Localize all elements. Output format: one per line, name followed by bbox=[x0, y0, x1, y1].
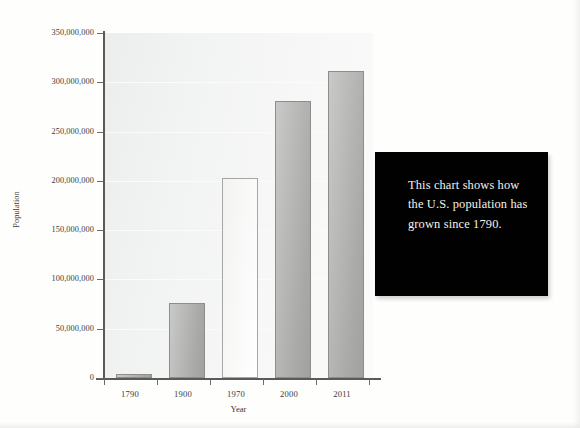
page-canvas: 350,000,000 300,000,000 250,000,000 200,… bbox=[0, 0, 580, 428]
bar-2011[interactable] bbox=[328, 71, 364, 378]
callout-box: This chart shows how the U.S. population… bbox=[375, 152, 548, 296]
x-tick bbox=[157, 379, 158, 385]
y-tick-label-250m: 250,000,000 bbox=[16, 127, 94, 136]
y-tick bbox=[97, 279, 103, 280]
x-tick-label-1970: 1970 bbox=[206, 389, 266, 399]
y-tick bbox=[97, 329, 103, 330]
y-tick bbox=[97, 181, 103, 182]
y-tick-label-350m: 350,000,000 bbox=[16, 28, 94, 37]
y-tick bbox=[97, 33, 103, 34]
callout-text: This chart shows how the U.S. population… bbox=[408, 176, 538, 234]
y-axis-line bbox=[103, 31, 105, 379]
y-tick-label-300m: 300,000,000 bbox=[16, 77, 94, 86]
x-axis-title: Year bbox=[104, 404, 373, 414]
x-tick bbox=[210, 379, 211, 385]
bar-shadow bbox=[280, 106, 314, 381]
bar-1900[interactable] bbox=[169, 303, 205, 378]
x-tick bbox=[316, 379, 317, 385]
y-tick bbox=[97, 230, 103, 231]
y-tick-label-100m: 100,000,000 bbox=[16, 274, 94, 283]
y-tick bbox=[97, 378, 103, 379]
bar-2000[interactable] bbox=[275, 101, 311, 378]
x-tick-label-1790: 1790 bbox=[100, 389, 160, 399]
bar-shadow bbox=[227, 183, 261, 381]
y-tick-label-150m: 150,000,000 bbox=[16, 225, 94, 234]
y-tick-label-200m: 200,000,000 bbox=[16, 176, 94, 185]
y-tick bbox=[97, 132, 103, 133]
y-tick-label-50m: 50,000,000 bbox=[16, 324, 94, 333]
x-tick bbox=[104, 379, 105, 385]
y-axis-title: Population bbox=[12, 175, 21, 245]
bar-1970[interactable] bbox=[222, 178, 258, 378]
x-tick bbox=[263, 379, 264, 385]
plot-area bbox=[104, 33, 373, 378]
x-tick bbox=[369, 379, 370, 385]
bar-shadow bbox=[174, 308, 208, 381]
x-tick-label-1900: 1900 bbox=[153, 389, 213, 399]
page-edge-shading-bottom bbox=[0, 422, 580, 428]
x-tick-label-2000: 2000 bbox=[259, 389, 319, 399]
y-tick-label-0: 0 bbox=[16, 373, 94, 382]
page-edge-shading-right bbox=[573, 0, 580, 428]
bar-shadow bbox=[333, 76, 367, 381]
x-tick-label-2011: 2011 bbox=[312, 389, 372, 399]
y-tick bbox=[97, 82, 103, 83]
x-axis-line bbox=[96, 378, 381, 380]
